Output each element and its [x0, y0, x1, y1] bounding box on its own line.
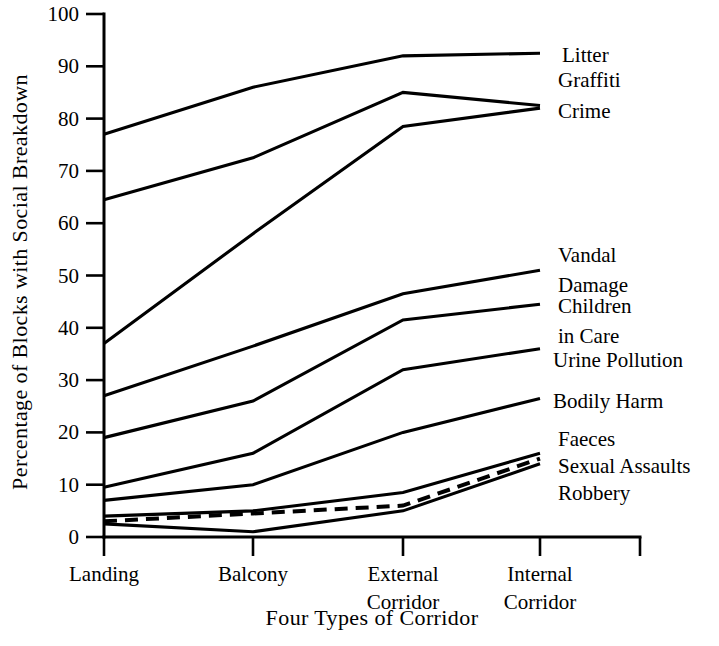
y-tick-label: 10 [58, 473, 79, 497]
series-line [104, 270, 540, 396]
series-label: Children [558, 294, 632, 318]
y-axis-title-text: Percentage of Blocks with Social Breakdo… [7, 74, 32, 490]
y-tick-label: 20 [58, 420, 79, 444]
y-tick-label: 40 [58, 316, 79, 340]
x-tick-label: External [367, 562, 438, 586]
x-axis-ticks [104, 537, 640, 556]
y-tick-label: 50 [58, 264, 79, 288]
series-label: Crime [558, 99, 611, 123]
chart-container: Percentage of Blocks with Social Breakdo… [0, 0, 719, 646]
series-line [104, 108, 540, 343]
series-label: in Care [558, 324, 619, 348]
y-tick-label: 100 [48, 2, 80, 26]
series-label: Faeces [558, 427, 615, 451]
line-chart: Percentage of Blocks with Social Breakdo… [0, 0, 719, 646]
y-tick-label: 80 [58, 107, 79, 131]
series-label: Sexual Assaults [558, 454, 690, 478]
series-line [104, 349, 540, 488]
y-tick-label: 60 [58, 211, 79, 235]
series-label: Robbery [558, 481, 631, 505]
series-labels: LitterGraffitiCrimeVandalDamageChildreni… [553, 43, 690, 505]
series-label: Graffiti [558, 68, 621, 92]
series-label: Litter [562, 43, 609, 67]
series-label: Bodily Harm [553, 389, 663, 413]
series-label: Vandal [558, 243, 616, 267]
x-tick-label: Internal [507, 562, 572, 586]
series-line [104, 53, 540, 134]
series-line [104, 304, 540, 437]
series-label: Urine Pollution [553, 348, 684, 372]
y-axis-ticks [86, 14, 104, 537]
x-tick-label: Balcony [218, 562, 288, 586]
y-tick-label: 30 [58, 368, 79, 392]
series-lines [104, 53, 540, 532]
x-tick-label: Corridor [504, 590, 576, 614]
x-axis-title: Four Types of Corridor [266, 605, 479, 630]
y-axis-tick-labels: 0102030405060708090100 [48, 2, 80, 549]
x-tick-label: Landing [69, 562, 139, 586]
y-axis-title: Percentage of Blocks with Social Breakdo… [7, 74, 32, 490]
y-tick-label: 0 [69, 525, 80, 549]
y-tick-label: 70 [58, 159, 79, 183]
axes [86, 14, 640, 556]
y-tick-label: 90 [58, 54, 79, 78]
series-line [104, 459, 540, 522]
